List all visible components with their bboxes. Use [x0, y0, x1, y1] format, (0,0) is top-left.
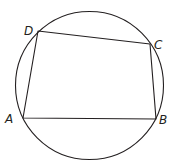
vertex-label-c: C — [154, 38, 163, 52]
vertex-label-d: D — [24, 24, 33, 38]
quadrilateral-abcd — [23, 31, 156, 119]
vertex-label-a: A — [4, 112, 13, 126]
vertex-label-b: B — [159, 113, 167, 127]
cyclic-quadrilateral-diagram: A B C D — [0, 0, 176, 167]
